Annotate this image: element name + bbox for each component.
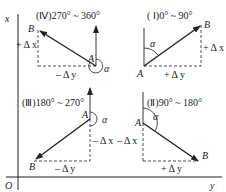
- angle-arc: [144, 48, 158, 55]
- quadrant-i: ( Ⅰ)0° ~ 90° B A α + Δ x + Δ y: [136, 10, 224, 80]
- point-a-label: A: [87, 53, 95, 64]
- point-b-label: B: [28, 23, 34, 34]
- point-b-label: B: [29, 161, 35, 172]
- quadrant-title: (Ⅱ)90° ~ 180°: [147, 97, 202, 109]
- dy-label: – Δ y: [55, 69, 76, 80]
- dx-label: – Δ x: [116, 135, 137, 146]
- coordinate-azimuth-diagram: x y O (Ⅳ)270° ~ 360° B A α + Δ x – Δ y (…: [0, 0, 226, 192]
- dx-label: – Δ x: [92, 135, 113, 146]
- quadrant-iii: (Ⅲ)180° ~ 270° B A α – Δ x – Δ y: [22, 88, 113, 174]
- angle-label: α: [104, 63, 110, 74]
- origin-label: O: [5, 180, 12, 191]
- point-b-label: B: [204, 19, 210, 30]
- point-b-label: B: [202, 150, 208, 161]
- y-axis-label: y: [209, 180, 215, 191]
- dy-label: – Δ y: [54, 163, 75, 174]
- x-axis-label: x: [4, 13, 10, 24]
- quadrant-title: ( Ⅰ)0° ~ 90°: [147, 10, 193, 22]
- angle-label: α: [153, 111, 159, 122]
- point-a-label: A: [136, 68, 144, 79]
- dx-label: + Δ x: [16, 39, 37, 50]
- quadrant-iv: (Ⅳ)270° ~ 360° B A α + Δ x – Δ y: [16, 10, 110, 80]
- angle-arc: [90, 112, 97, 126]
- quadrant-title: (Ⅳ)270° ~ 360°: [36, 10, 100, 22]
- point-a-label: A: [134, 117, 142, 128]
- angle-label: α: [150, 38, 156, 49]
- dy-label: + Δ y: [164, 69, 185, 80]
- vector-ab: [36, 119, 90, 159]
- point-a-label: A: [81, 109, 89, 120]
- dx-label: + Δ x: [203, 42, 224, 53]
- angle-label: α: [102, 114, 108, 125]
- quadrant-title: (Ⅲ)180° ~ 270°: [22, 97, 84, 109]
- quadrant-ii: (Ⅱ)90° ~ 180° B A α – Δ x + Δ y: [116, 92, 208, 174]
- vector-ab: [143, 123, 198, 161]
- dy-label: + Δ y: [161, 163, 182, 174]
